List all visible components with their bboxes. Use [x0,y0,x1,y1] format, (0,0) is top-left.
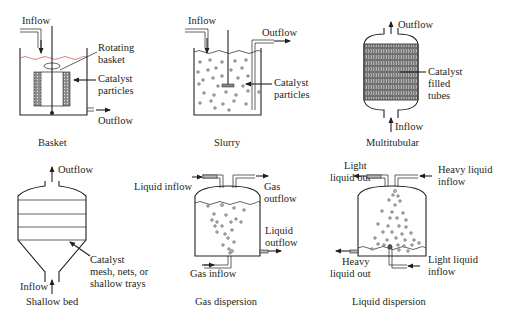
shallow-bed-outflow-label: Outflow [58,164,93,175]
liquid-dispersion-reactor: Light liquid out Heavy liquid inflow Lig… [330,160,493,307]
slurry-catalyst-label-2: particles [274,89,310,100]
liquid-dispersion-heavy-in-label: Heavy liquid [438,164,493,175]
shallow-bed-inflow-label: Inflow [20,281,48,292]
liquid-dispersion-heavy-out-label: Heavy [342,256,370,267]
liquid-dispersion-light-out-label: Light [344,160,367,171]
gas-bubbles [207,204,246,255]
liquid-dispersion-light-in-label-2: inflow [428,266,456,277]
shallow-bed-caption: Shallow bed [26,296,79,307]
multitubular-catalyst-label-2: filled [428,78,451,89]
basket-catalyst-label-2: particles [98,85,134,96]
gas-dispersion-liquid-outflow-label-2: outflow [265,237,298,248]
basket-rotating-label-2: basket [98,54,125,65]
liquid-droplets [371,190,421,253]
gas-dispersion-gas-inflow-label: Gas inflow [190,268,237,279]
shallow-bed-catalyst-label-2: mesh, nets, or [90,266,149,277]
gas-dispersion-liquid-inflow-label: Liquid inflow [134,181,192,192]
multitubular-caption: Multitubular [366,137,420,148]
basket-inflow-label: Inflow [22,15,50,26]
liquid-dispersion-heavy-out-label-2: liquid out [330,268,371,279]
basket-outflow-label: Outflow [98,115,133,126]
basket-reactor: Inflow Rotating basket Catalyst particle… [20,15,135,148]
gas-dispersion-caption: Gas dispersion [195,296,258,307]
slurry-catalyst-label: Catalyst [274,77,308,88]
multitubular-outflow-label: Outflow [398,19,433,30]
slurry-caption: Slurry [214,137,241,148]
slurry-outflow-label: Outflow [262,27,297,38]
liquid-dispersion-light-out-label-2: liquid out [330,172,371,183]
liquid-dispersion-caption: Liquid dispersion [352,296,427,307]
gas-dispersion-gas-outflow-label-2: outflow [264,193,297,204]
multitubular-catalyst-label: Catalyst [428,66,462,77]
shallow-bed-catalyst-label-3: shallow trays [90,278,146,289]
gas-dispersion-liquid-outflow-label: Liquid [265,225,294,236]
multitubular-catalyst-label-3: tubes [428,90,450,101]
slurry-inflow-label: Inflow [188,15,216,26]
multitubular-reactor: Outflow Inflow Catalyst filled tubes Mul… [364,19,462,148]
liquid-dispersion-heavy-in-label-2: inflow [438,176,466,187]
basket-rotating-label: Rotating [98,42,135,53]
liquid-dispersion-light-in-label: Light liquid [428,254,479,265]
gas-dispersion-reactor: Liquid inflow Gas outflow Gas inflow Liq… [134,175,298,307]
basket-caption: Basket [38,137,67,148]
basket-catalyst-label: Catalyst [98,73,132,84]
shallow-bed-catalyst-label: Catalyst [90,254,124,265]
slurry-reactor: Inflow Outflow Catalyst particles Slurry [185,15,310,148]
shallow-bed-reactor: Outflow Inflow Catalyst mesh, nets, or s… [18,164,149,307]
multitubular-inflow-label: Inflow [395,121,423,132]
gas-dispersion-gas-outflow-label: Gas [264,181,280,192]
